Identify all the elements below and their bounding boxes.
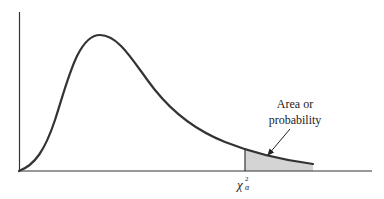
critical-value-symbol: χ (235, 177, 243, 192)
density-curve (19, 35, 313, 171)
critical-value-superscript: 2 (245, 175, 249, 183)
annotation-line-1: Area or (277, 97, 313, 111)
chi-square-diagram: Area or probability χ 2 α (0, 0, 384, 199)
critical-value-subscript: α (245, 183, 250, 192)
annotation-line-2: probability (269, 113, 322, 127)
annotation-arrow (268, 129, 290, 155)
